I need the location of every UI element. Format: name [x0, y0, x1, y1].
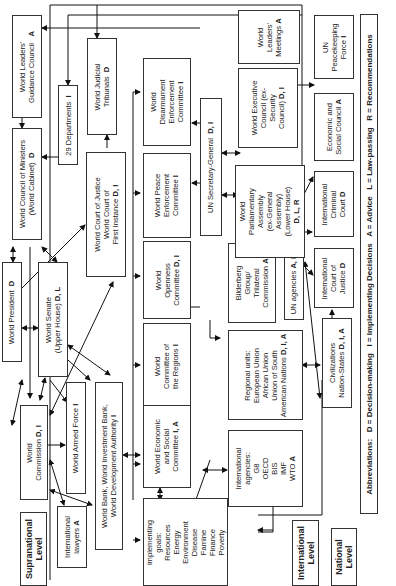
supranational-level-label: Supranational Level [20, 512, 47, 586]
national-level-label: National Level [331, 528, 357, 586]
world-armed-force: World Armed Force I [66, 382, 86, 494]
world-senate: World Senate (Upper House) D, L [38, 262, 68, 377]
international-lawyers: International lawyers A [57, 506, 87, 568]
world-disarmament-committee: World Disarmament Enforcement Committee … [143, 58, 191, 146]
un-secretary-general: UN Secretary-General D, I [200, 98, 222, 236]
world-president: World President D [2, 262, 22, 362]
un-agencies: UN agencies A, I [284, 250, 304, 320]
world-parliamentary-assembly: World Parliamentary Assembly (ex-General… [235, 165, 305, 258]
economic-social-council: Economic and Social Council A [314, 93, 354, 161]
departments-box: 29 Departments I [58, 85, 78, 165]
international-agencies: International agencies: G8 OECD BIS IMF … [228, 430, 303, 507]
world-leaders-meetings: World Leaders' Meetings A [238, 10, 300, 64]
international-criminal-court: International Criminal Court D [314, 171, 354, 237]
implementing-goals-committees: Committees for implementing goals: Resou… [143, 498, 228, 586]
world-bank-group: World Bank, World Investment Bank, World… [95, 382, 123, 550]
un-peacekeeping-force: UN Peacekeeping Force I [314, 15, 354, 79]
abbreviations-legend: Abbreviations: D = Decision-making I = I… [360, 14, 378, 514]
international-court-of-justice: International Court of Justice D [314, 248, 354, 308]
world-court-of-justice: World Court of Justice World Court of Fi… [86, 152, 126, 277]
world-economic-social-committee: World Economic and Social Committee I, A [143, 405, 191, 488]
world-openness-committee: World Openness Committee D, I [143, 241, 191, 319]
world-leaders-guidance-council: World Leaders' Guidance Council A [12, 15, 42, 118]
world-council-of-ministers: World Council of Ministers (World Cabine… [12, 128, 42, 240]
world-peace-enforcement-committee: World Peace Enforcement Committee I [143, 153, 191, 238]
world-judicial-tribunals: World Judicial Tribunals D [87, 38, 117, 135]
governance-diagram: World Leaders' Guidance Council A World … [0, 0, 396, 586]
civilizations-nation-states: Civilizations Nation-States D, I, A [322, 318, 352, 408]
world-commission: World Commission D, I [20, 405, 48, 500]
world-committee-of-regions: World Committee of the Regions I [143, 323, 191, 410]
world-executive-council: World Executive Council (ex- Security Co… [238, 68, 298, 148]
international-level-label: International Level [292, 520, 319, 586]
regional-units: Regional units: European Union African U… [228, 330, 303, 420]
